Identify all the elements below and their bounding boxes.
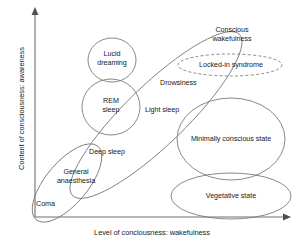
rem-sleep-line-2: sleep [103,105,120,114]
conscious-wakefulness-line-2: wakefulness [212,34,251,43]
label-general-anaesthesia: General anaesthesia [48,168,104,185]
label-deep-sleep: Deep sleep [89,148,145,157]
label-vegetative-state: Vegetative state [186,192,276,201]
x-axis-arrowhead [283,214,291,221]
y-axis-arrowhead [32,7,39,15]
label-locked-in-syndrome: Locked-in syndrome [186,61,276,70]
consciousness-state-space-diagram: Content of consciousness: awareness Leve… [0,0,304,242]
x-axis-title: Level of conciousness: wakefulness [0,228,304,237]
label-light-sleep: Light sleep [145,106,201,115]
general-anaesthesia-line-2: anaesthesia [57,176,95,185]
y-axis-title: Content of consciousness: awareness [17,19,26,199]
lucid-dreaming-line-2: dreaming [97,58,127,67]
label-rem-sleep: REM sleep [88,97,134,114]
label-coma: Coma [36,200,72,209]
label-lucid-dreaming: Lucid dreaming [88,50,136,67]
label-drowsiness: Drowsiness [160,79,220,88]
label-conscious-wakefulness: Conscious wakefulness [196,26,268,43]
label-minimally-conscious-state: Minimally conscious state [176,135,286,144]
